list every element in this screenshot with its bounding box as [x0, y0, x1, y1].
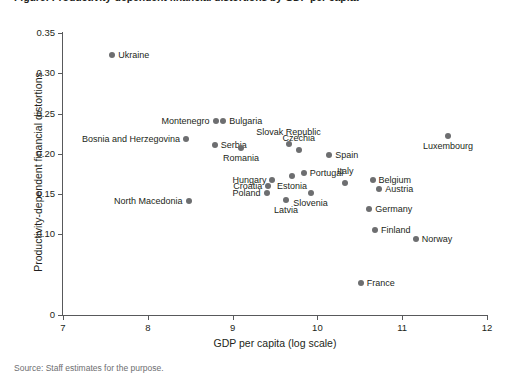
- data-point[interactable]: [445, 133, 451, 139]
- y-tick-label: 0.10: [37, 228, 56, 239]
- data-point[interactable]: [342, 180, 348, 186]
- data-point[interactable]: [366, 206, 372, 212]
- data-point-label: Spain: [335, 151, 358, 160]
- x-tick-label: 9: [230, 322, 235, 333]
- data-point-label: France: [367, 278, 395, 287]
- data-point[interactable]: [213, 118, 219, 124]
- data-point[interactable]: [212, 142, 218, 148]
- data-point[interactable]: [372, 227, 378, 233]
- data-point[interactable]: [376, 186, 382, 192]
- data-point[interactable]: [220, 118, 226, 124]
- data-point[interactable]: [370, 177, 376, 183]
- x-tick: 11: [402, 315, 403, 320]
- data-point[interactable]: [238, 145, 244, 151]
- data-point[interactable]: [289, 173, 295, 179]
- data-point[interactable]: [358, 280, 364, 286]
- x-tick: 9: [233, 315, 234, 320]
- data-point[interactable]: [269, 177, 275, 183]
- x-axis-line: [62, 315, 488, 316]
- data-point-label: Slovenia: [293, 199, 328, 208]
- data-point[interactable]: [301, 170, 307, 176]
- y-tick-label: 0.25: [37, 108, 56, 119]
- data-point-label: Ukraine: [118, 50, 149, 59]
- x-tick-label: 10: [312, 322, 323, 333]
- x-tick: 10: [317, 315, 318, 320]
- chart-title: Figure: Productivity-dependent financial…: [14, 0, 494, 3]
- data-point-label: Finland: [381, 225, 411, 234]
- data-point[interactable]: [283, 197, 289, 203]
- x-tick-label: 8: [145, 322, 150, 333]
- data-point-label: Luxembourg: [423, 142, 473, 151]
- y-tick-label: 0.30: [37, 67, 56, 78]
- data-point[interactable]: [265, 183, 271, 189]
- plot-area: UkraineMontenegroBulgariaBosnia and Herz…: [63, 33, 487, 315]
- x-tick: 7: [63, 315, 64, 320]
- data-point[interactable]: [308, 190, 314, 196]
- data-point-label: Norway: [422, 235, 453, 244]
- data-point-label: Austria: [385, 184, 413, 193]
- data-point-label: Italy: [337, 167, 354, 176]
- y-tick-label: 0.15: [37, 188, 56, 199]
- data-point-label: Bulgaria: [229, 116, 262, 125]
- data-point-label: Estonia: [277, 182, 307, 191]
- data-point-label: Romania: [223, 154, 259, 163]
- data-point[interactable]: [109, 52, 115, 58]
- data-point[interactable]: [186, 198, 192, 204]
- data-point[interactable]: [264, 190, 270, 196]
- x-tick: 12: [487, 315, 488, 320]
- data-point[interactable]: [413, 236, 419, 242]
- source-note: Source: Staff estimates for the purpose.: [14, 363, 164, 375]
- y-tick-label: 0.20: [37, 148, 56, 159]
- x-axis-title: GDP per capita (log scale): [63, 337, 487, 349]
- data-point-label: Czechia: [282, 134, 315, 143]
- y-tick-label: 0.35: [37, 27, 56, 38]
- x-tick-label: 11: [397, 322, 407, 333]
- x-tick: 8: [148, 315, 149, 320]
- data-point[interactable]: [183, 136, 189, 142]
- data-point-label: Latvia: [274, 206, 298, 215]
- y-tick-label: 0: [50, 309, 55, 320]
- data-point[interactable]: [296, 147, 302, 153]
- x-tick-label: 12: [482, 322, 493, 333]
- data-point[interactable]: [326, 152, 332, 158]
- scatter-chart-figure: Figure: Productivity-dependent financial…: [0, 0, 506, 375]
- x-tick-label: 7: [60, 322, 65, 333]
- data-point-label: Germany: [375, 205, 412, 214]
